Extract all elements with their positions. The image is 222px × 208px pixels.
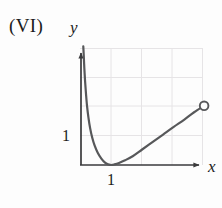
grid-lines — [80, 48, 203, 165]
y-axis-tick-label: 1 — [62, 128, 70, 144]
open-circle-endpoint — [200, 102, 209, 111]
x-axis-label: x — [208, 158, 216, 175]
y-axis-label: y — [70, 19, 78, 36]
x-axis-tick-label: 1 — [107, 172, 115, 188]
figure-panel: (VI) y x 1 1 — [0, 0, 222, 208]
panel-label: (VI) — [9, 16, 43, 35]
axis-lines — [80, 53, 199, 165]
